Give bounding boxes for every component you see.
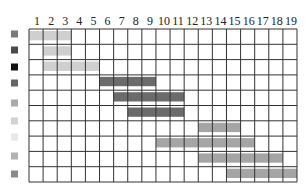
legend-color-marker — [11, 47, 18, 54]
bars-layer — [29, 31, 297, 178]
column-header-label: 7 — [119, 14, 125, 28]
column-headers: 12345678910111213141516171819 — [34, 14, 297, 28]
task-bar — [29, 31, 71, 40]
legend-color-marker — [11, 118, 18, 125]
column-header-label: 15 — [229, 14, 241, 28]
legend-color-marker — [11, 100, 18, 107]
column-header-label: 18 — [271, 14, 283, 28]
legend-markers — [11, 31, 18, 178]
gantt-chart: 12345678910111213141516171819 — [0, 0, 308, 195]
column-header-label: 11 — [172, 14, 184, 28]
column-header-label: 19 — [285, 14, 297, 28]
task-bar — [156, 138, 255, 147]
legend-color-marker — [11, 80, 18, 87]
legend-color-marker — [11, 171, 18, 178]
column-header-label: 6 — [105, 14, 111, 28]
column-header-label: 9 — [147, 14, 153, 28]
column-header-label: 13 — [200, 14, 212, 28]
column-header-label: 16 — [243, 14, 255, 28]
column-header-label: 10 — [158, 14, 170, 28]
column-header-label: 2 — [48, 14, 54, 28]
task-bar — [226, 169, 297, 178]
legend-color-marker — [11, 31, 18, 38]
column-header-label: 4 — [76, 14, 82, 28]
legend-color-marker — [11, 134, 18, 141]
column-header-label: 5 — [90, 14, 96, 28]
legend-color-marker — [11, 153, 18, 160]
column-header-label: 8 — [133, 14, 139, 28]
column-header-label: 1 — [34, 14, 40, 28]
column-header-label: 14 — [214, 14, 226, 28]
column-header-label: 12 — [186, 14, 198, 28]
column-header-label: 3 — [62, 14, 68, 28]
legend-color-marker — [11, 64, 18, 71]
task-bar — [198, 123, 240, 132]
task-bar — [114, 92, 185, 101]
column-header-label: 17 — [257, 14, 269, 28]
